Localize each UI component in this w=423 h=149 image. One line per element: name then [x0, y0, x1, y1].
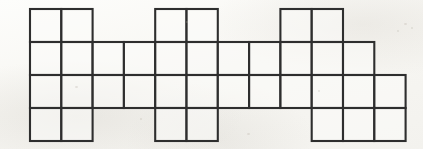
grid-cell-r3-c3: [93, 75, 124, 108]
grid-cell-r1-c2: [61, 9, 92, 42]
grid-cell-r1-c5: [155, 9, 186, 42]
grid-cell-r3-c12: [374, 75, 405, 108]
grid-cell-r3-c8: [249, 75, 280, 108]
grid-cell-r3-c6: [187, 75, 218, 108]
grid-cell-r2-c9: [280, 42, 311, 75]
polyomino-grid: [0, 0, 423, 149]
grid-cell-r4-c2: [61, 108, 92, 141]
grid-cell-r1-c9: [280, 9, 311, 42]
grid-cell-r2-c10: [312, 42, 343, 75]
figure-container: [0, 0, 423, 149]
grid-cell-r3-c9: [280, 75, 311, 108]
grid-cell-r2-c4: [124, 42, 155, 75]
grid-cell-r4-c10: [312, 108, 343, 141]
grid-cell-r4-c1: [30, 108, 61, 141]
grid-cell-r1-c1: [30, 9, 61, 42]
grid-cell-r3-c2: [61, 75, 92, 108]
grid-cell-r2-c8: [249, 42, 280, 75]
grid-cell-r1-c10: [312, 9, 343, 42]
grid-cell-r4-c6: [187, 108, 218, 141]
grid-cell-r2-c6: [187, 42, 218, 75]
grid-cell-r3-c5: [155, 75, 186, 108]
grid-cell-r4-c11: [343, 108, 374, 141]
grid-cell-r4-c12: [374, 108, 405, 141]
grid-cell-r3-c10: [312, 75, 343, 108]
grid-cell-r3-c4: [124, 75, 155, 108]
grid-cell-r2-c2: [61, 42, 92, 75]
grid-cell-r3-c7: [218, 75, 249, 108]
grid-cell-r2-c5: [155, 42, 186, 75]
grid-cell-r2-c1: [30, 42, 61, 75]
grid-cell-r2-c3: [93, 42, 124, 75]
grid-cell-r3-c11: [343, 75, 374, 108]
grid-cell-r3-c1: [30, 75, 61, 108]
grid-cell-r2-c7: [218, 42, 249, 75]
grid-cell-r2-c11: [343, 42, 374, 75]
grid-cell-r4-c5: [155, 108, 186, 141]
grid-cell-r1-c6: [187, 9, 218, 42]
